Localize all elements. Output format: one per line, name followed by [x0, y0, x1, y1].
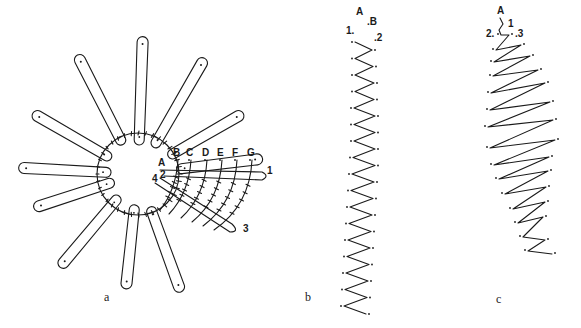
petal-dot: [177, 284, 179, 286]
point-label-3: 3: [243, 223, 249, 234]
petal-dot: [200, 64, 202, 66]
panel-c-label: .3: [515, 28, 524, 39]
stitch-dot: [368, 313, 370, 315]
petal-loop: [74, 54, 125, 145]
stitch-dot: [509, 207, 511, 209]
stitch-dot: [524, 249, 526, 251]
stitch-dot: [342, 272, 344, 274]
panel-c-label: 2.: [486, 28, 495, 39]
stitch-dot: [375, 66, 377, 68]
point-label-f: F: [232, 147, 238, 158]
point-label-1: 1: [267, 165, 273, 176]
petal-loop: [32, 111, 112, 161]
stitch-dot: [351, 91, 353, 93]
petal-dot: [80, 61, 82, 63]
panel-c-label: A: [497, 5, 504, 16]
stitch-dot: [548, 185, 550, 187]
stitch-dot: [377, 115, 379, 117]
stitch-dot: [484, 125, 486, 127]
petal-dot: [113, 201, 115, 203]
petal-dot: [102, 171, 104, 173]
stitch-dot: [519, 235, 521, 237]
letter-dot: [204, 159, 206, 161]
ring-tick: [176, 181, 181, 182]
petal-dot: [25, 167, 27, 169]
stitch-dot: [340, 305, 342, 307]
petal-dot: [236, 116, 238, 118]
petal-dot: [126, 280, 128, 282]
ring-tick: [145, 212, 147, 216]
point-label-c: C: [186, 147, 193, 158]
letter-dot: [175, 159, 177, 161]
stitch-dot: [373, 231, 375, 233]
stitch-dot: [489, 74, 491, 76]
letter-dot: [188, 159, 190, 161]
petal-dot: [152, 214, 154, 216]
stitch-dot: [547, 200, 549, 202]
petal-dot: [103, 154, 105, 156]
caption-a: a: [104, 290, 109, 305]
stitch-dot: [375, 198, 377, 200]
petal-dot: [184, 167, 186, 169]
letter-dot: [234, 159, 236, 161]
stitch-dot: [523, 43, 525, 45]
stitch-dot: [347, 190, 349, 192]
stitch-dot: [351, 41, 353, 43]
stitch-dot: [486, 108, 488, 110]
stitch-dot: [350, 124, 352, 126]
petal-dot: [40, 205, 42, 207]
stitch-dot: [550, 169, 552, 171]
petal-dot: [106, 183, 108, 185]
letter-dot: [249, 159, 251, 161]
stitch-dot: [376, 181, 378, 183]
stitch-dot: [497, 33, 499, 35]
petal-dot: [133, 212, 135, 214]
stitch-dot: [371, 264, 373, 266]
petal-dot: [38, 116, 40, 118]
stitch-dot: [486, 146, 488, 148]
stitch-dot: [374, 214, 376, 216]
caption-b: b: [305, 290, 311, 305]
point-label-b: B: [173, 147, 180, 158]
ring-tick: [118, 137, 119, 140]
stitch-dot: [348, 173, 350, 175]
petal-dot: [118, 137, 120, 139]
stitch-dot: [511, 33, 513, 35]
petal-loop: [151, 58, 207, 148]
stitch-dot: [540, 68, 542, 70]
point-label-2: 2: [160, 169, 166, 180]
petal-dot: [254, 159, 256, 161]
stitch-dot: [343, 256, 345, 258]
stitch-dot: [344, 239, 346, 241]
petal-loop: [147, 207, 185, 293]
petal-dot: [138, 136, 140, 138]
stitch-dot: [349, 157, 351, 159]
stitch-dot: [346, 206, 348, 208]
stitch-dot: [552, 100, 554, 102]
stitch-dot: [547, 81, 549, 83]
stitch-dot: [545, 215, 547, 217]
stitch-dot: [377, 132, 379, 134]
stitch-dot: [487, 91, 489, 93]
stitch-dot: [554, 252, 556, 254]
stitch-dot: [370, 280, 372, 282]
stitch-dot: [345, 223, 347, 225]
stitch-dot: [555, 118, 557, 120]
panel-b-label: .2: [374, 32, 383, 43]
stitch-dot: [372, 247, 374, 249]
stitch-dot: [374, 49, 376, 51]
ring-tick: [118, 208, 119, 211]
stitch-dot: [351, 58, 353, 60]
embroidery-stitch-diagram: ABCDEFG1234A.B1..2A12..3: [0, 0, 581, 328]
panel-c-label: 1: [508, 18, 514, 29]
stitch-dot: [376, 99, 378, 101]
stitch-dot: [547, 238, 549, 240]
stitch-dot: [341, 289, 343, 291]
stitch-dot: [557, 138, 559, 140]
stitch-dot: [490, 60, 492, 62]
stitch-arc: [214, 160, 252, 230]
stitch-dot: [377, 165, 379, 167]
stitch-dot: [495, 177, 497, 179]
stitch-dot: [551, 155, 553, 157]
point-label-a: A: [158, 157, 165, 168]
